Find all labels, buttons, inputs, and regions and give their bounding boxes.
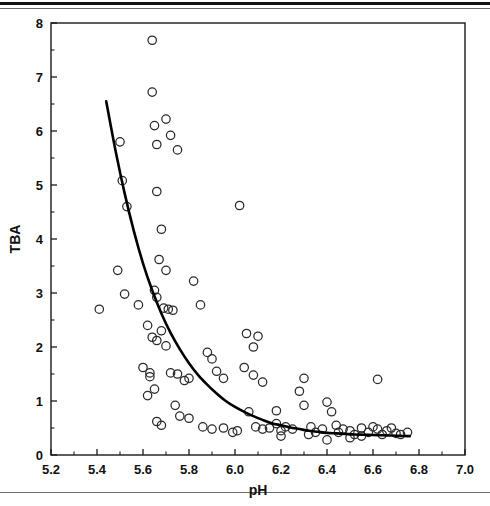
x-axis-title: pH [249,482,268,498]
plot-frame [51,23,465,455]
data-point [254,332,262,340]
data-point [171,401,179,409]
x-tick-label: 6.2 [272,462,290,477]
data-point [185,414,193,422]
data-point [162,266,170,274]
data-point [249,343,257,351]
data-point [150,121,158,129]
y-tick-label: 5 [36,178,43,193]
data-point [134,301,142,309]
x-tick-label: 5.4 [88,462,107,477]
data-point [120,290,128,298]
data-point [189,277,197,285]
data-point [199,423,207,431]
plot-frame-rect [51,23,465,455]
axis-ticks [51,23,465,455]
y-tick-label: 7 [36,70,43,85]
data-point [323,398,331,406]
y-tick-label: 1 [36,394,43,409]
data-point [143,391,151,399]
data-points [95,36,412,444]
data-point [295,387,303,395]
x-tick-label: 5.2 [42,462,60,477]
data-point [258,378,266,386]
x-tick-label: 6.4 [318,462,337,477]
data-point [219,374,227,382]
data-point [143,321,151,329]
data-point [272,407,280,415]
data-point [166,131,174,139]
figure-root: 0123456785.25.45.65.86.06.26.46.66.87.0 … [0,0,490,506]
x-tick-label: 5.6 [134,462,152,477]
data-point [208,425,216,433]
data-point [212,367,220,375]
data-point [323,436,331,444]
data-point [373,375,381,383]
y-tick-label: 8 [36,16,43,31]
x-tick-label: 6.8 [410,462,428,477]
x-tick-label: 7.0 [456,462,474,477]
data-point [240,363,248,371]
data-point [157,225,165,233]
y-tick-label: 6 [36,124,43,139]
data-point [176,412,184,420]
data-point [300,374,308,382]
data-point [196,301,204,309]
data-point [242,329,250,337]
y-tick-label: 2 [36,340,43,355]
data-point [148,88,156,96]
data-point [95,305,103,313]
data-point [249,371,257,379]
y-tick-label: 0 [36,448,43,463]
data-point [327,408,335,416]
x-tick-label: 6.0 [226,462,244,477]
data-point [300,401,308,409]
y-axis-title: TBA [7,225,23,254]
data-point [114,266,122,274]
data-point [173,146,181,154]
x-tick-label: 6.6 [364,462,382,477]
y-tick-label: 3 [36,286,43,301]
data-point [155,255,163,263]
data-point [208,355,216,363]
y-tick-label: 4 [36,232,44,247]
data-point [235,201,243,209]
data-point [219,424,227,432]
scatter-plot: 0123456785.25.45.65.86.06.26.46.66.87.0 … [0,0,490,506]
x-tick-label: 5.8 [180,462,198,477]
data-point [162,342,170,350]
data-point [153,140,161,148]
data-point [116,138,124,146]
data-point [153,187,161,195]
data-point [150,385,158,393]
data-point [277,432,285,440]
data-point [157,327,165,335]
axis-titles: pHTBA [7,225,267,498]
data-point [148,36,156,44]
data-point [162,115,170,123]
axis-tick-labels: 0123456785.25.45.65.86.06.26.46.66.87.0 [36,16,474,478]
